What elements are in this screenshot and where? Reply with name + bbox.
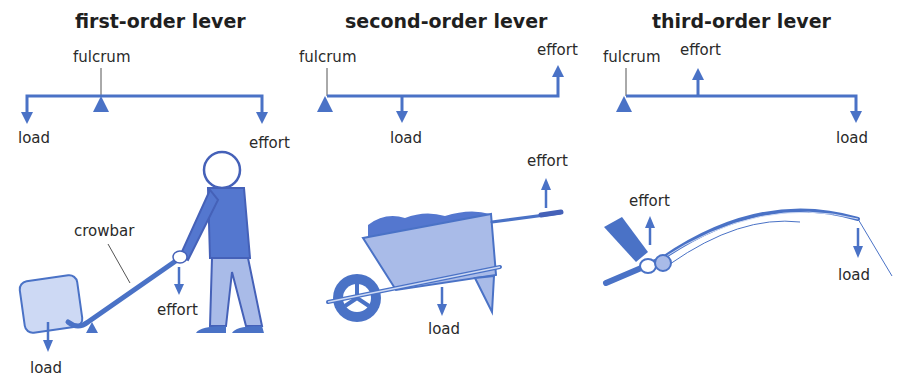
person-legs-icon (210, 258, 262, 326)
fulcrum-triangle-icon (616, 96, 632, 112)
load-arrow-icon (396, 111, 408, 123)
effort-arrow-icon (256, 112, 268, 124)
crowbar-label: crowbar (74, 222, 135, 240)
third-order-lever-panel: third-order lever fulcrum effort load ef… (603, 10, 892, 284)
crowbar-illustration: crowbar effort load (19, 152, 264, 377)
crowbar-pointer-line (108, 244, 130, 283)
first-order-fulcrum-label: fulcrum (73, 48, 131, 66)
person-hand-icon (173, 251, 187, 263)
first-order-effort-label: effort (249, 134, 290, 152)
first-order-beam (27, 96, 262, 112)
third-order-beam (626, 96, 856, 112)
person-head-icon (204, 152, 240, 188)
third-order-fulcrum-label: fulcrum (603, 48, 661, 66)
rod-load-arrow-icon (853, 246, 863, 258)
fulcrum-triangle-icon (317, 96, 333, 112)
crowbar-load-label: load (30, 359, 62, 377)
levers-diagram: first-order lever fulcrum load effort cr… (0, 0, 903, 377)
second-order-fulcrum-label: fulcrum (299, 48, 357, 66)
fishing-hand-icon (640, 259, 656, 273)
fishing-rod-icon (660, 211, 858, 260)
rod-effort-arrow-icon (645, 216, 655, 228)
wheelbarrow-effort-arrow-icon (541, 178, 551, 190)
third-order-title: third-order lever (652, 10, 832, 32)
fishing-rod-highlight (660, 212, 858, 260)
rod-load-label: load (838, 266, 870, 284)
wheelbarrow-load-arrow-icon (437, 304, 447, 316)
fishing-rod-arm-icon (604, 217, 648, 262)
second-order-beam (327, 76, 558, 96)
third-order-effort-label: effort (680, 41, 721, 59)
load-arrow-icon (21, 112, 33, 124)
third-order-load-label: load (836, 129, 868, 147)
fishing-reel-icon (655, 255, 671, 271)
wheelbarrow-load-label: load (428, 320, 460, 338)
fishing-rod-illustration: effort load (604, 192, 892, 284)
crowbar-effort-label: effort (157, 301, 198, 319)
crowbar-effort-arrow-icon (174, 284, 184, 295)
person-shoe-right-icon (232, 326, 264, 333)
load-arrow-icon (850, 111, 862, 123)
first-order-lever-panel: first-order lever fulcrum load effort cr… (18, 10, 290, 377)
second-order-lever-panel: second-order lever fulcrum load effort e… (299, 10, 578, 338)
effort-arrow-icon (552, 65, 564, 77)
first-order-title: first-order lever (75, 10, 246, 32)
second-order-title: second-order lever (345, 10, 548, 32)
effort-arrow-icon (692, 68, 704, 80)
crowbar-load-arrow-icon (43, 340, 53, 352)
rod-effort-label: effort (629, 192, 670, 210)
fulcrum-triangle-icon (93, 96, 109, 112)
person-shoe-left-icon (196, 326, 226, 333)
wheelbarrow-effort-label: effort (527, 152, 568, 170)
wheelbarrow-grip-icon (541, 212, 561, 215)
wheelbarrow-illustration: effort load (328, 152, 568, 338)
second-order-load-label: load (390, 129, 422, 147)
second-order-effort-label: effort (537, 41, 578, 59)
first-order-load-label: load (18, 129, 50, 147)
wheelbarrow-leg-icon (475, 276, 494, 312)
